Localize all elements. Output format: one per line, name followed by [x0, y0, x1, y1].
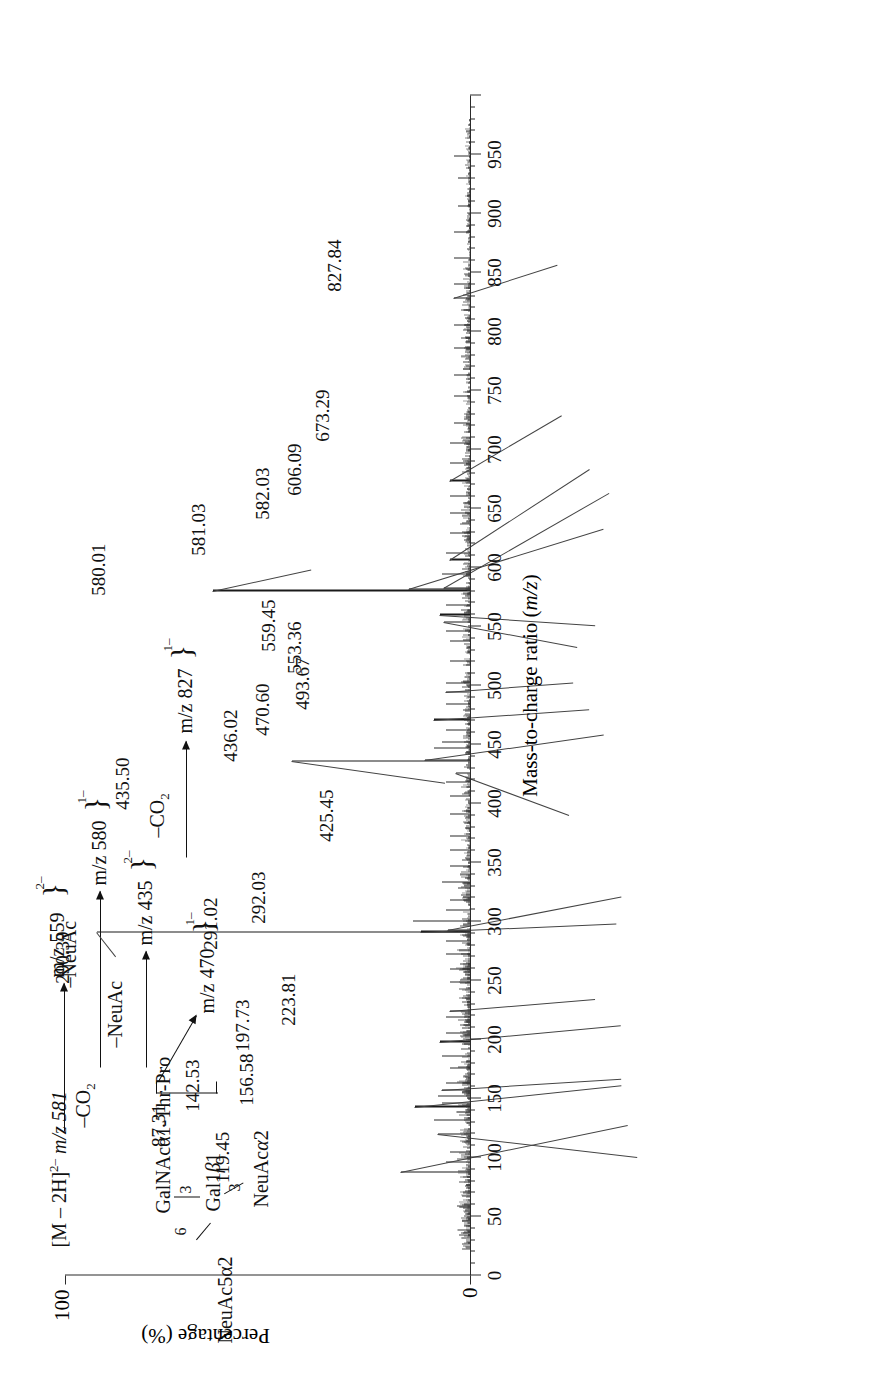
noise-spike	[461, 1048, 470, 1049]
x-tick-780	[470, 354, 475, 355]
x-tick-640	[470, 519, 475, 520]
satellite-peak	[446, 682, 470, 683]
satellite-peak	[450, 795, 470, 796]
noise-spike	[461, 1217, 470, 1218]
noise-spike	[461, 786, 470, 787]
x-tick-label-650: 650	[484, 494, 506, 523]
peak-label-223.81: 223.81	[278, 973, 300, 1025]
x-tick-730	[470, 413, 475, 414]
x-tick-410	[470, 790, 475, 791]
y-tick-0	[470, 1275, 471, 1284]
x-tick-150	[470, 1097, 481, 1098]
x-tick-180	[470, 1062, 475, 1063]
peak-label-606.09: 606.09	[284, 443, 306, 495]
x-tick-710	[470, 436, 475, 437]
x-tick-170	[470, 1073, 475, 1074]
x-tick-660	[470, 495, 475, 496]
noise-spike	[463, 261, 470, 262]
x-tick-200	[470, 1038, 481, 1039]
satellite-peak	[450, 495, 470, 496]
rotated-figure-canvas: [M – 2H]2– m/z 581 NeuAc5α2 6 GalNAcα1-T…	[0, 0, 872, 1383]
x-tick-500	[470, 684, 481, 685]
x-tick-320	[470, 896, 475, 897]
x-tick-270	[470, 955, 475, 956]
x-tick-label-50: 50	[484, 1207, 506, 1226]
satellite-peak	[450, 1151, 470, 1152]
leader-line-223.81	[449, 999, 595, 1012]
satellite-peak	[454, 347, 470, 348]
peak-label-197.73: 197.73	[232, 999, 254, 1051]
x-tick-920	[470, 188, 475, 189]
peak-label-290.39: 290.39	[52, 931, 74, 983]
noise-spike	[463, 963, 470, 964]
baseline-noise	[440, 95, 470, 1275]
x-tick-610	[470, 554, 475, 555]
x-tick-350	[470, 861, 481, 862]
x-tick-740	[470, 401, 475, 402]
satellite-peak	[458, 177, 470, 178]
peak-label-425.45: 425.45	[316, 789, 338, 841]
x-tick-0	[470, 1274, 481, 1275]
x-tick-70	[470, 1191, 475, 1192]
x-tick-930	[470, 177, 475, 178]
peak-label-580.01: 580.01	[88, 543, 110, 595]
noise-spike	[463, 1090, 470, 1091]
x-tick-430	[470, 767, 475, 768]
noise-spike	[463, 563, 470, 564]
x-tick-10	[470, 1262, 475, 1263]
satellite-peak	[446, 940, 470, 941]
noise-spike	[463, 737, 470, 738]
noise-spike	[463, 896, 470, 897]
x-tick-530	[470, 649, 475, 650]
peak-label-435.50: 435.50	[112, 757, 134, 809]
x-tick-label-350: 350	[484, 848, 506, 877]
noise-spike	[459, 1181, 470, 1182]
x-tick-label-500: 500	[484, 671, 506, 700]
x-tick-690	[470, 460, 475, 461]
noise-spike	[462, 1084, 470, 1085]
noise-spike	[462, 436, 470, 437]
precursor-charge: 2–	[46, 1158, 61, 1171]
peak-label-559.45: 559.45	[258, 599, 280, 651]
x-tick-990	[470, 106, 475, 107]
figure-page: [M – 2H]2– m/z 581 NeuAc5α2 6 GalNAcα1-T…	[0, 0, 872, 1383]
noise-spike	[458, 1104, 470, 1105]
satellite-peak	[450, 849, 470, 850]
noise-spike	[461, 1134, 470, 1135]
x-tick-540	[470, 637, 475, 638]
noise-spike	[461, 1011, 470, 1012]
x-tick-450	[470, 743, 481, 744]
x-tick-960	[470, 141, 475, 142]
satellite-peak	[446, 552, 470, 553]
satellite-peak	[438, 1095, 470, 1096]
satellite-peak	[454, 231, 470, 232]
peak-label-470.60: 470.60	[252, 683, 274, 735]
satellite-peak	[450, 442, 470, 443]
x-tick-620	[470, 542, 475, 543]
x-tick-940	[470, 165, 475, 166]
x-tick-890	[470, 224, 475, 225]
x-tick-910	[470, 200, 475, 201]
noise-spike	[461, 1156, 470, 1157]
noise-spike	[461, 509, 470, 510]
x-tick-480	[470, 708, 475, 709]
noise-spike	[460, 1132, 470, 1133]
x-tick-100	[470, 1156, 481, 1157]
satellite-peak	[454, 283, 470, 284]
x-tick-label-400: 400	[484, 789, 506, 818]
x-tick-label-300: 300	[484, 907, 506, 936]
x-tick-80	[470, 1180, 475, 1181]
satellite-peak	[450, 462, 470, 463]
x-tick-label-800: 800	[484, 317, 506, 346]
x-tick-520	[470, 660, 475, 661]
x-tick-60	[470, 1203, 475, 1204]
y-tick-label-100: 100	[50, 1289, 75, 1321]
x-tick-label-850: 850	[484, 258, 506, 287]
x-tick-260	[470, 967, 475, 968]
x-tick-850	[470, 271, 481, 272]
x-tick-570	[470, 601, 475, 602]
noise-spike	[461, 1154, 470, 1155]
satellite-peak	[454, 422, 470, 423]
satellite-peak	[454, 374, 470, 375]
x-tick-380	[470, 826, 475, 827]
